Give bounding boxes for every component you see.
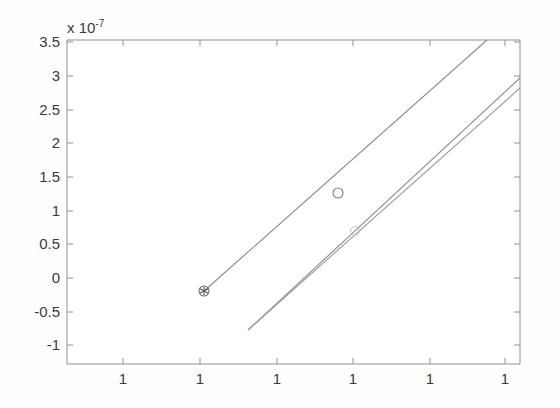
plot-canvas: 3.5 3 2.5 2 1.5 1 0.5 0 -0.5 -1 1 1 1 1 … <box>0 0 560 408</box>
y-tick-label: -0.5 <box>34 303 60 320</box>
x-tick-label: 1 <box>119 370 127 387</box>
x-tick-label: 1 <box>501 370 509 387</box>
x-tick-label: 1 <box>273 370 281 387</box>
x-tick-labels: 1 1 1 1 1 1 <box>119 370 509 387</box>
y-tick-label: 1 <box>52 202 60 219</box>
x-tick-label: 1 <box>426 370 434 387</box>
x-tick-label: 1 <box>349 370 357 387</box>
svg-text:x 10-7: x 10-7 <box>67 18 105 36</box>
x-tick-label: 1 <box>196 370 204 387</box>
y-tick-label: 2.5 <box>39 101 60 118</box>
y-tick-label: -1 <box>47 336 60 353</box>
y-tick-label: 0.5 <box>39 235 60 252</box>
exponent-base: x 10 <box>67 19 95 36</box>
y-tick-label: 0 <box>52 269 60 286</box>
y-tick-labels: 3.5 3 2.5 2 1.5 1 0.5 0 -0.5 -1 <box>34 33 60 353</box>
y-tick-label: 1.5 <box>39 168 60 185</box>
y-tick-label: 3.5 <box>39 33 60 50</box>
exponent-power: -7 <box>95 18 104 29</box>
y-tick-label: 2 <box>52 134 60 151</box>
plot-background <box>67 40 520 364</box>
y-axis-exponent-label: x 10-7 <box>67 18 105 36</box>
y-tick-label: 3 <box>52 67 60 84</box>
chart-figure: 3.5 3 2.5 2 1.5 1 0.5 0 -0.5 -1 1 1 1 1 … <box>0 0 560 408</box>
